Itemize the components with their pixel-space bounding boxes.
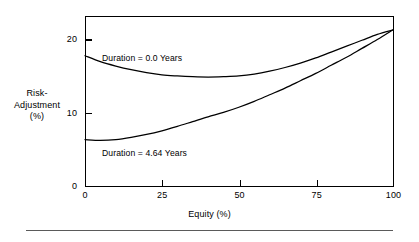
curves-layer xyxy=(0,0,419,242)
annotation-duration-464: Duration = 4.64 Years xyxy=(102,148,187,158)
bottom-separator-rule xyxy=(26,230,393,231)
chart-figure: 0 10 20 0 25 50 75 100 Risk- Adjustment … xyxy=(0,0,419,242)
annotation-duration-0: Duration = 0.0 Years xyxy=(102,53,182,63)
